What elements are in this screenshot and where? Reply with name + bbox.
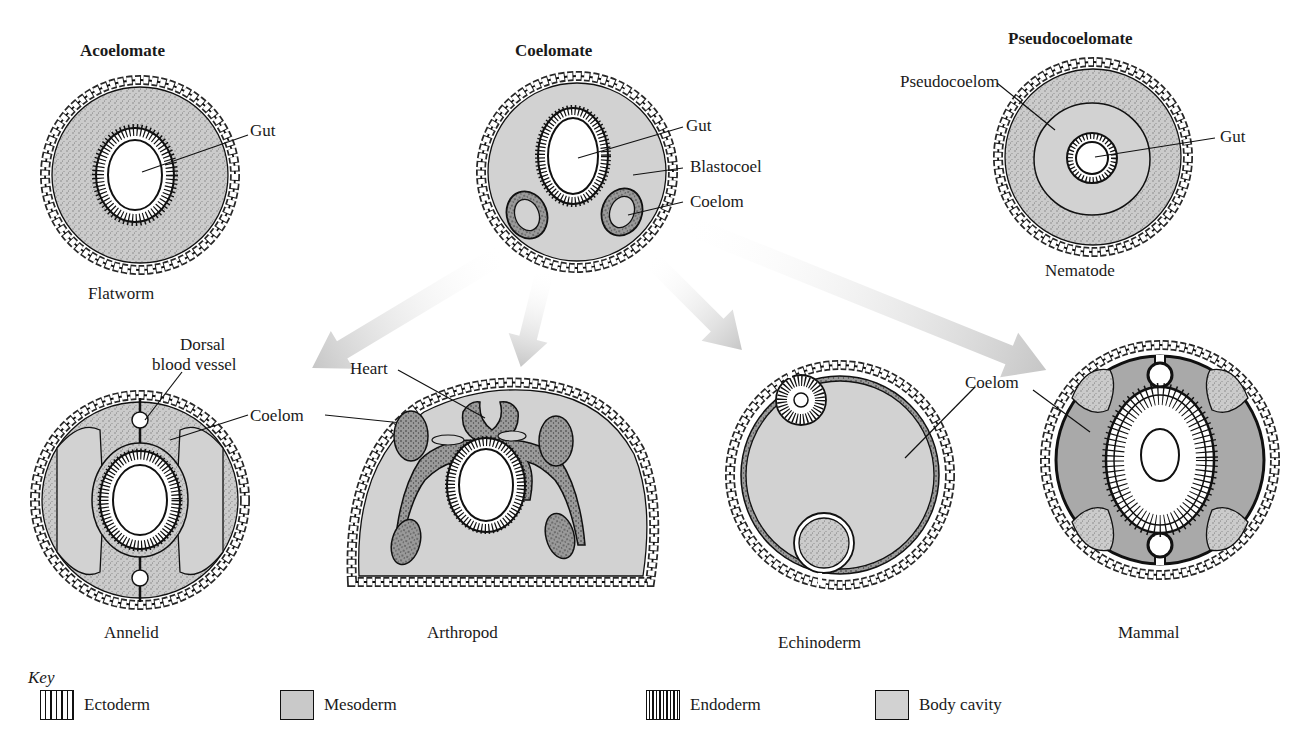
mammal-diagram (1033, 345, 1275, 575)
dorsal-label-line1: Dorsal (180, 336, 225, 353)
acoelomate-heading: Acoelomate (80, 42, 165, 59)
arrows (301, 200, 1055, 392)
key-item-ectoderm: Ectoderm (40, 690, 150, 720)
arthropod-diagram (352, 370, 655, 582)
pseudocoelomate-heading: Pseudocoelomate (1008, 30, 1133, 47)
pseudocoelom-label: Pseudocoelom (900, 73, 999, 90)
mammal-caption: Mammal (1118, 624, 1179, 641)
echinoderm-diagram (730, 365, 975, 585)
flatworm-caption: Flatworm (88, 285, 154, 302)
annelid-caption: Annelid (104, 624, 159, 641)
echinoderm-caption: Echinoderm (778, 634, 861, 651)
endoderm-swatch-icon (646, 690, 680, 720)
key-label: Endoderm (690, 695, 761, 715)
coelomate-diagram (481, 76, 683, 268)
mesoderm-swatch-icon (280, 690, 314, 720)
key-item-body-cavity: Body cavity (875, 690, 1002, 720)
key-label: Body cavity (919, 695, 1002, 715)
key-label: Ectoderm (84, 695, 150, 715)
coelomate-coelom-label: Coelom (690, 193, 744, 210)
nematode-caption: Nematode (1045, 262, 1115, 279)
nematode-gut-label: Gut (1220, 128, 1246, 145)
key-title: Key (28, 668, 54, 688)
arthropod-caption: Arthropod (427, 624, 498, 641)
echinoderm-coelom-label: Coelom (965, 374, 1019, 391)
key-item-mesoderm: Mesoderm (280, 690, 397, 720)
key-label: Mesoderm (324, 695, 397, 715)
nematode-diagram (997, 62, 1215, 252)
coelomate-blastocoel-label: Blastocoel (690, 158, 762, 175)
coelomate-gut-label: Gut (686, 117, 712, 134)
annelid-arthropod-coelom-label: Coelom (250, 407, 304, 424)
body-plan-diagram (0, 0, 1300, 753)
key-item-endoderm: Endoderm (646, 690, 761, 720)
body-cavity-swatch-icon (875, 690, 909, 720)
acoelomate-gut-label: Gut (250, 122, 276, 139)
dorsal-label-line2: blood vessel (152, 356, 237, 373)
heart-label: Heart (350, 360, 388, 377)
coelomate-heading: Coelomate (515, 42, 592, 59)
ectoderm-swatch-icon (40, 690, 74, 720)
flatworm-diagram (45, 80, 248, 270)
